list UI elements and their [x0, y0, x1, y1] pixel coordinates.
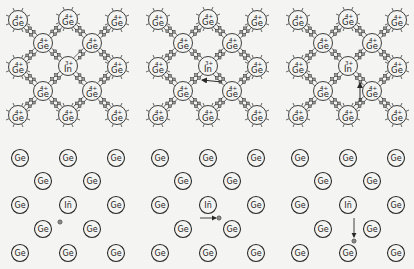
bond-stub	[352, 28, 353, 31]
element-label: In	[64, 64, 72, 74]
germanium-ion: Ge	[364, 221, 381, 238]
indium-atom: 3+In	[59, 57, 78, 76]
electron-icon	[355, 102, 358, 105]
bond-stub	[252, 76, 253, 79]
bond-stub	[22, 8, 23, 11]
bond-stub	[56, 23, 59, 24]
bond-stub	[261, 124, 262, 127]
bond-stub	[245, 15, 248, 16]
electron-icon	[26, 54, 29, 57]
electron-icon	[312, 78, 315, 81]
electron-icon	[106, 30, 109, 33]
bond-stub	[63, 103, 64, 106]
electron-icon	[215, 29, 218, 32]
bond-stub	[162, 8, 163, 11]
electron-icon	[306, 30, 309, 33]
bond-stub	[252, 124, 253, 127]
element-label: Ge	[86, 89, 98, 99]
electron-icon	[244, 57, 247, 60]
bond-stub	[212, 28, 213, 31]
bond-stub	[121, 124, 122, 127]
electron-icon	[383, 81, 386, 84]
germanium-ion: Ge	[388, 245, 405, 262]
germanium-ion: Ge	[200, 245, 217, 262]
hole-icon	[58, 220, 62, 224]
bond-stub	[245, 24, 248, 25]
bond-stub	[153, 124, 154, 127]
bond-stub	[203, 7, 204, 10]
germanium-ion: Ge	[224, 173, 241, 190]
bond-stub	[385, 110, 388, 111]
germanium-atom: 4+Ge	[223, 34, 242, 53]
electron-icon	[246, 54, 249, 57]
germanium-ion: Ge	[224, 221, 241, 238]
bond-stub	[13, 55, 14, 58]
electron-icon	[32, 53, 35, 56]
electron-icon	[244, 74, 247, 77]
lattice-panel-2: 4+Ge4+Ge4+Ge4+Ge4+Ge4+Ge3+In4+Ge4+Ge4+Ge…	[146, 7, 269, 127]
germanium-ion: Ge	[248, 197, 265, 214]
bond-stub	[406, 24, 409, 25]
electron-icon	[384, 27, 387, 30]
bond-stub	[105, 62, 108, 63]
electron-icon	[172, 53, 175, 56]
indium-ion: In̄	[60, 197, 77, 214]
germanium-atom: 4+Ge	[34, 82, 53, 101]
electron-icon	[306, 54, 309, 57]
bond-stub	[261, 8, 262, 11]
electron-icon	[334, 50, 337, 53]
bond-stub	[392, 76, 393, 79]
bond-stub	[406, 119, 409, 120]
electron-icon	[240, 53, 243, 56]
electron-icon	[54, 33, 57, 36]
germanium-atom: 4+Ge	[149, 106, 168, 125]
bond-stub	[112, 76, 113, 79]
bond-stub	[72, 28, 73, 31]
electron-icon	[55, 74, 58, 77]
bond-stub	[343, 7, 344, 10]
germanium-ion: Ge	[248, 150, 265, 167]
element-label: Ge	[62, 154, 73, 163]
germanium-atom: 4+Ge	[149, 11, 168, 30]
electron-icon	[243, 50, 246, 53]
electron-icon	[362, 53, 365, 56]
element-label: Ge	[14, 249, 25, 258]
germanium-atom: 4+Ge	[83, 34, 102, 53]
element-label: Ge	[226, 41, 238, 51]
bond-stub	[357, 14, 360, 15]
diagram-canvas: 4+Ge4+Ge4+Ge4+Ge4+Ge4+Ge3+In4+Ge4+Ge4+Ge…	[0, 0, 414, 269]
germanium-ion: Ge	[315, 221, 332, 238]
element-label: Ge	[62, 17, 74, 27]
electron-icon	[172, 30, 175, 33]
bond-stub	[146, 62, 149, 63]
bond-stub	[401, 124, 402, 127]
electron-icon	[246, 102, 249, 105]
electron-icon	[334, 98, 337, 101]
bond-stub	[266, 24, 269, 25]
germanium-atom: 4+Ge	[149, 58, 168, 77]
electron-icon	[75, 29, 78, 32]
germanium-ion: Ge	[388, 197, 405, 214]
germanium-ion: Ge	[248, 245, 265, 262]
electron-icon	[334, 80, 337, 83]
electron-icon	[191, 30, 194, 33]
bond-stub	[22, 103, 23, 106]
electron-icon	[82, 101, 85, 104]
electron-icon	[51, 30, 54, 33]
electron-icon	[170, 33, 173, 36]
element-label: Ge	[202, 249, 213, 258]
bond-stub	[307, 71, 310, 72]
electron-icon	[197, 102, 200, 105]
element-label: Ge	[110, 249, 121, 258]
germanium-atom: 4+Ge	[314, 82, 333, 101]
electron-icon	[380, 101, 383, 104]
bond-stub	[293, 103, 294, 106]
bond-stub	[162, 76, 163, 79]
electron-icon	[331, 78, 334, 81]
electron-icon	[219, 50, 222, 53]
bond-stub	[385, 15, 388, 16]
hole-icon	[217, 216, 221, 220]
electron-icon	[222, 78, 225, 81]
electron-icon	[55, 26, 58, 29]
electron-icon	[166, 54, 169, 57]
